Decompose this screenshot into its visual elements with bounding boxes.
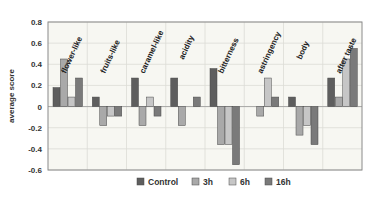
legend: Control3h6h16h	[137, 177, 291, 187]
bar-6h	[107, 107, 114, 117]
bar-6h	[264, 78, 271, 107]
bar-control	[210, 69, 217, 107]
legend-item-3h: 3h	[192, 177, 213, 187]
bar-3h	[257, 107, 264, 117]
legend-item-6h: 6h	[229, 177, 250, 187]
chart-canvas: 0.80.60.40.20-0.2-0.4-0.6average scorefl…	[0, 0, 381, 198]
bar-16h	[350, 48, 357, 106]
legend-label: 16h	[276, 177, 291, 187]
bar-16h	[76, 78, 83, 107]
legend-swatch	[137, 178, 144, 185]
bar-3h	[218, 107, 225, 145]
legend-item-16h: 16h	[265, 177, 291, 187]
legend-label: 3h	[203, 177, 213, 187]
bar-3h	[178, 107, 185, 126]
bar-control	[328, 78, 335, 107]
bar-control	[289, 97, 296, 107]
bar-6h	[304, 107, 311, 126]
legend-label: Control	[148, 177, 178, 187]
bar-control	[132, 78, 139, 107]
bar-16h	[233, 107, 240, 165]
y-tick-label: 0	[38, 103, 43, 112]
bar-16h	[272, 97, 279, 107]
bar-6h	[225, 107, 232, 145]
y-tick-label: -0.6	[28, 166, 42, 175]
legend-item-control: Control	[137, 177, 178, 187]
y-tick-label: 0.4	[31, 60, 43, 69]
y-axis-title: average score	[7, 69, 16, 123]
bar-3h	[296, 107, 303, 136]
bar-16h	[311, 107, 318, 145]
bar-3h	[335, 97, 342, 107]
legend-swatch	[265, 178, 272, 185]
bar-chart: 0.80.60.40.20-0.2-0.4-0.6average scorefl…	[0, 0, 381, 198]
y-tick-label: -0.2	[28, 124, 42, 133]
bar-control	[92, 97, 99, 107]
bar-16h	[154, 107, 161, 117]
y-tick-label: 0.6	[31, 39, 43, 48]
legend-label: 6h	[240, 177, 250, 187]
bar-16h	[193, 97, 200, 107]
bar-control	[53, 88, 60, 107]
y-tick-label: 0.8	[31, 18, 43, 27]
bar-6h	[68, 97, 75, 107]
bar-16h	[115, 107, 122, 117]
legend-swatch	[229, 178, 236, 185]
y-tick-label: 0.2	[31, 81, 43, 90]
bar-6h	[147, 97, 154, 107]
bar-3h	[100, 107, 107, 126]
bar-3h	[139, 107, 146, 126]
y-tick-label: -0.4	[28, 145, 42, 154]
legend-swatch	[192, 178, 199, 185]
bar-control	[171, 78, 178, 107]
